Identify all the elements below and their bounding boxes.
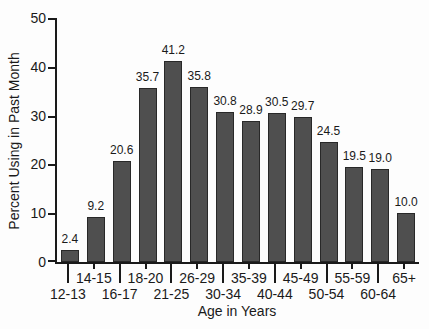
- x-tick: [248, 264, 250, 269]
- y-tick-label: 20: [16, 156, 46, 172]
- y-tick: [48, 213, 55, 215]
- x-tick: [326, 264, 328, 283]
- bar-value-label: 30.8: [213, 95, 236, 108]
- x-tick-label: 12-13: [50, 287, 86, 301]
- y-tick-label: 30: [16, 108, 46, 124]
- x-tick-label: 40-44: [257, 287, 293, 301]
- bar: [190, 87, 208, 262]
- bar: [320, 142, 338, 262]
- x-tick-label: 65+: [392, 271, 416, 285]
- bar-value-label: 28.9: [239, 104, 262, 117]
- bar-value-label: 41.2: [162, 44, 185, 57]
- y-tick-label: 50: [16, 10, 46, 26]
- x-tick-label: 18-20: [128, 271, 164, 285]
- x-tick-label: 16-17: [102, 287, 138, 301]
- bar-value-label: 35.7: [136, 71, 159, 84]
- bar-value-label: 19.0: [369, 152, 392, 165]
- x-tick: [93, 264, 95, 269]
- y-axis-title: Percent Using in Past Month: [6, 52, 22, 229]
- x-tick: [300, 264, 302, 269]
- x-tick: [222, 264, 224, 283]
- bar-value-label: 19.5: [343, 150, 366, 163]
- x-tick-label: 14-15: [76, 271, 112, 285]
- bar-value-label: 35.8: [188, 70, 211, 83]
- x-axis-title: Age in Years: [55, 303, 419, 319]
- x-tick-label: 30-34: [205, 287, 241, 301]
- x-tick: [274, 264, 276, 283]
- bar: [164, 61, 182, 262]
- x-tick-label: 21-25: [153, 287, 189, 301]
- bar: [139, 88, 157, 262]
- bar-value-label: 20.6: [110, 144, 133, 157]
- bar: [216, 112, 234, 262]
- x-tick: [196, 264, 198, 269]
- bar-value-label: 2.4: [62, 233, 79, 246]
- bar: [61, 250, 79, 262]
- x-tick-label: 35-39: [231, 271, 267, 285]
- x-tick: [67, 264, 69, 283]
- bar: [87, 217, 105, 262]
- plot-area: 010203040502.49.220.635.741.235.830.828.…: [55, 18, 419, 264]
- bar-value-label: 30.5: [265, 96, 288, 109]
- y-tick: [48, 18, 55, 20]
- y-tick: [48, 260, 55, 262]
- bar: [371, 169, 389, 262]
- x-tick-label: 26-29: [179, 271, 215, 285]
- y-tick-label: 10: [16, 205, 46, 221]
- bar: [242, 121, 260, 262]
- bar: [345, 167, 363, 262]
- x-tick-label: 55-59: [334, 271, 370, 285]
- y-tick-label: 0: [16, 254, 46, 270]
- bar-value-label: 24.5: [317, 125, 340, 138]
- x-tick-label: 50-54: [309, 287, 345, 301]
- y-tick: [48, 164, 55, 166]
- bar: [113, 161, 131, 262]
- y-tick-label: 40: [16, 59, 46, 75]
- x-axis: 12-1314-1516-1718-2021-2526-2930-3435-39…: [55, 264, 419, 308]
- x-tick: [119, 264, 121, 283]
- x-tick: [351, 264, 353, 269]
- x-tick: [145, 264, 147, 269]
- x-tick-label: 60-64: [360, 287, 396, 301]
- bar: [268, 113, 286, 262]
- bar-value-label: 29.7: [291, 100, 314, 113]
- x-tick-label: 45-49: [283, 271, 319, 285]
- y-tick: [48, 67, 55, 69]
- bar-value-label: 9.2: [87, 200, 104, 213]
- bar-chart-figure: Percent Using in Past Month 010203040502…: [0, 0, 429, 329]
- y-tick: [48, 116, 55, 118]
- bar-value-label: 10.0: [394, 196, 417, 209]
- bar: [397, 213, 415, 262]
- bar: [294, 117, 312, 262]
- x-tick: [170, 264, 172, 283]
- x-tick: [403, 264, 405, 269]
- x-tick: [377, 264, 379, 283]
